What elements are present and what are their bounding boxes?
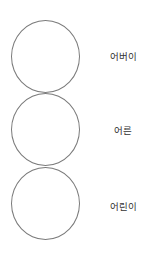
stacked-circle-diagram: 어버이 어른 어린이 — [0, 0, 146, 259]
circle-adult — [11, 93, 80, 166]
label-parent: 어버이 — [98, 51, 146, 63]
circle-child — [11, 167, 80, 240]
label-child: 어린이 — [98, 201, 146, 213]
circle-parent — [11, 20, 80, 93]
label-adult: 어른 — [98, 125, 146, 137]
